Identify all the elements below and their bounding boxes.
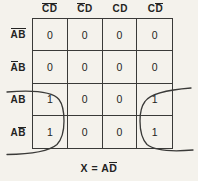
kmap-grid: 0 0 0 0 0 0 0 0 1 0 0 1 1 0 0 1 [32, 18, 173, 149]
col-header-cbar-dbar: CD [32, 2, 67, 15]
kmap-cell: 0 [103, 51, 138, 83]
col-header-cbar-d: CD [67, 2, 102, 15]
col-header-c-d: CD [103, 2, 138, 15]
row-header-abar-b: AB [0, 51, 29, 84]
kmap-cell: 0 [103, 19, 138, 51]
kmap-cell: 0 [33, 19, 68, 51]
column-headers: CD CD CD CD [32, 2, 173, 15]
karnaugh-map-figure: CD CD CD CD AB AB AB AB 0 0 0 0 0 0 0 0 … [0, 0, 198, 181]
kmap-cell: 0 [68, 19, 103, 51]
kmap-cell: 0 [103, 116, 138, 148]
equation-caption: X = AD [0, 162, 198, 174]
row-header-a-b: AB [0, 84, 29, 117]
kmap-cell: 1 [137, 84, 172, 116]
kmap-cell: 1 [137, 116, 172, 148]
kmap-cell: 0 [68, 84, 103, 116]
kmap-cell: 1 [33, 116, 68, 148]
col-header-c-dbar: CD [138, 2, 173, 15]
kmap-cell: 0 [103, 84, 138, 116]
kmap-cell: 0 [137, 19, 172, 51]
row-header-a-bbar: AB [0, 116, 29, 149]
row-headers: AB AB AB AB [0, 18, 29, 149]
kmap-cell: 0 [68, 51, 103, 83]
row-header-abar-bbar: AB [0, 18, 29, 51]
kmap-cell: 0 [33, 51, 68, 83]
kmap-cell: 0 [137, 51, 172, 83]
kmap-cell: 1 [33, 84, 68, 116]
kmap-cell: 0 [68, 116, 103, 148]
